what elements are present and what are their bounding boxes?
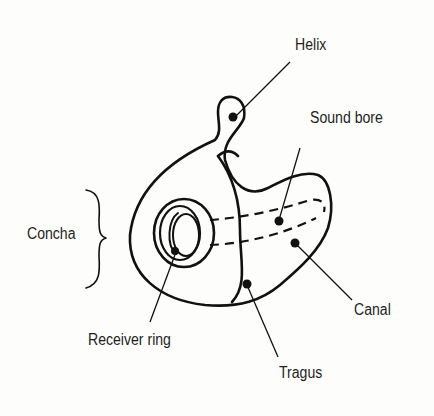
canal-dot (291, 239, 300, 248)
tragus-ridge (218, 156, 242, 302)
helix-leader (234, 62, 290, 118)
helix-dot (229, 113, 238, 122)
sound-bore-leader (279, 148, 300, 220)
tragus-dot (243, 280, 252, 289)
label-concha: Concha (27, 225, 76, 243)
sound-bore-dot (275, 217, 284, 226)
label-canal: Canal (354, 301, 391, 319)
concha-brace (86, 190, 106, 288)
label-receiver-ring: Receiver ring (88, 331, 171, 349)
receiver-ring-dot (171, 247, 179, 255)
earmold-outline (130, 97, 331, 306)
sound-bore-bottom (210, 218, 316, 245)
canal-leader (295, 243, 352, 300)
label-tragus: Tragus (279, 364, 322, 382)
sound-bore-top (210, 200, 324, 220)
label-sound-bore: Sound bore (310, 109, 383, 127)
label-helix: Helix (295, 36, 326, 54)
earmold-drawing (0, 0, 434, 416)
helix-ridge (218, 152, 238, 157)
earmold-diagram: Helix Sound bore Concha Canal Receiver r… (0, 0, 434, 416)
